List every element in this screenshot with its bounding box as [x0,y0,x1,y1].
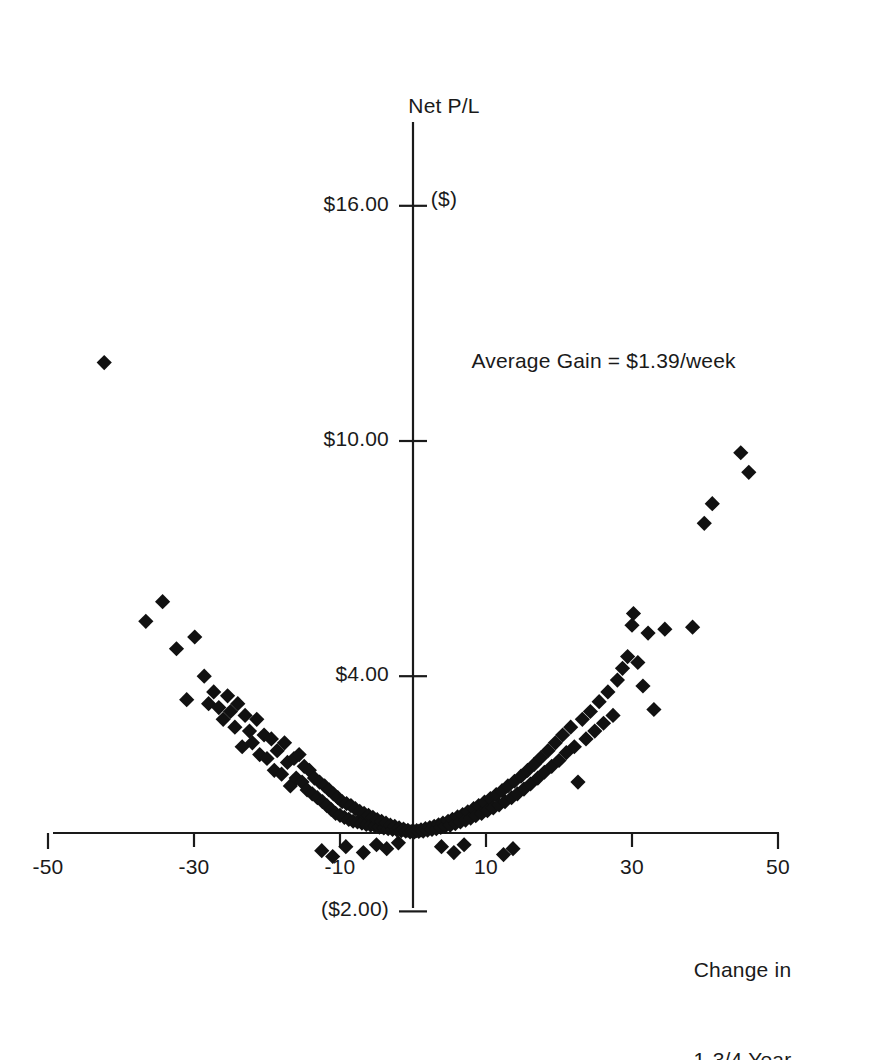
y-tick-label-3: $16.00 [239,192,389,216]
data-point [626,606,641,621]
data-point [155,594,170,609]
x-axis-title-line-2: 1-3/4 Year [600,1045,885,1060]
data-point [238,708,253,723]
data-point [657,622,672,637]
data-point [624,618,639,633]
x-tick-label-3: 10 [441,855,531,879]
data-point [733,445,748,460]
data-point [434,839,449,854]
data-point [685,620,700,635]
data-point [138,614,153,629]
data-point [646,702,661,717]
data-point [600,684,615,699]
x-tick-label-2: -10 [295,855,385,879]
data-point [179,692,194,707]
chart-figure: Net P/L ($) ($2.00)$4.00$10.00$16.00 -50… [0,0,888,1060]
data-point [97,355,112,370]
x-tick-label-1: -30 [149,855,239,879]
data-point [187,629,202,644]
x-axis-title: Change in 1-3/4 Year Futures Rate (bp) [600,895,885,1060]
data-point [697,516,712,531]
data-point [227,720,242,735]
data-point [705,496,720,511]
data-point [741,465,756,480]
x-tick-label-5: 50 [733,855,823,879]
x-axis-title-line-1: Change in [600,955,885,985]
data-point [242,723,257,738]
axis-lines [53,122,779,908]
data-point [570,774,585,789]
y-tick-label-2: $10.00 [239,427,389,451]
data-point [640,625,655,640]
y-tick-label-0: ($2.00) [239,897,389,921]
x-tick-label-4: 30 [587,855,677,879]
x-tick-label-0: -50 [3,855,93,879]
average-gain-annotation: Average Gain = $1.39/week [471,349,735,373]
data-point [592,694,607,709]
data-point [169,641,184,656]
data-point [635,678,650,693]
y-tick-label-1: $4.00 [239,662,389,686]
data-point-group [97,355,757,864]
data-point [197,669,212,684]
data-point [249,712,264,727]
